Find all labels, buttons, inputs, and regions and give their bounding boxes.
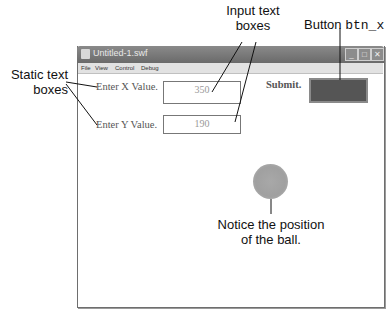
callout-static-text-boxes: Static text boxes (0, 67, 68, 97)
callout-text: boxes (200, 18, 306, 33)
callout-text: of the ball. (210, 232, 332, 247)
callout-button-btn-x: Button btn_x (304, 17, 391, 33)
callout-text: boxes (0, 82, 68, 97)
callout-text: Notice the position (210, 217, 332, 232)
callout-ball-position: Notice the position of the ball. (210, 217, 332, 247)
callout-text: Static text (0, 67, 68, 82)
callout-text: Button (304, 17, 345, 32)
callout-input-text-boxes: Input text boxes (200, 3, 306, 33)
callout-lines (0, 0, 391, 312)
callout-code: btn_x (345, 18, 384, 33)
callout-text: Input text (200, 3, 306, 18)
